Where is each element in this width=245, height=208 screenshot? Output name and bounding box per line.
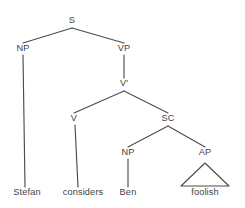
tree-leaf-leaf-considers: considers (63, 188, 104, 197)
tree-node-s: S (69, 16, 75, 25)
tree-branch-v-to-considers (75, 125, 78, 187)
tree-branch-sc-to-ap (168, 126, 205, 147)
tree-branch-s-to-np1 (23, 28, 72, 43)
tree-triangle-ap-triangle (181, 163, 229, 186)
tree-edges-layer (0, 0, 245, 208)
tree-leaf-leaf-stefan: Stefan (13, 188, 40, 197)
tree-node-np1: NP (16, 44, 29, 53)
tree-leaf-leaf-ben: Ben (120, 188, 137, 197)
tree-node-vbar: V' (120, 79, 128, 88)
syntax-tree-diagram: SNPVPV'VSCNPAP StefanconsidersBenfoolish (0, 0, 245, 208)
tree-branch-np1-to-stefan (23, 55, 25, 187)
tree-node-v: V (71, 114, 77, 123)
tree-node-np2: NP (121, 148, 134, 157)
tree-branch-sc-to-np2 (128, 126, 168, 147)
tree-branch-s-to-vp (72, 28, 124, 43)
tree-node-sc: SC (161, 114, 174, 123)
tree-node-vp: VP (118, 44, 131, 53)
tree-branch-vbar-to-v (74, 91, 124, 113)
tree-leaf-leaf-foolish: foolish (191, 188, 219, 197)
tree-branch-vbar-to-sc (124, 91, 168, 113)
tree-node-ap: AP (199, 148, 212, 157)
branch-group (23, 28, 205, 187)
triangle-group (181, 163, 229, 186)
